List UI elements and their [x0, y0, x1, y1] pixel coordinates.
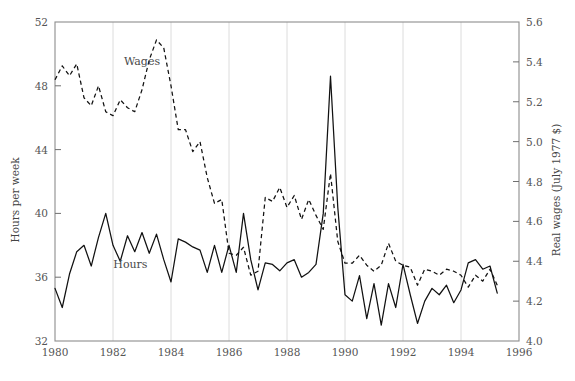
- x-tick-label: 1996: [506, 346, 533, 358]
- series-annotation-wages: Wages: [124, 55, 160, 68]
- y2-tick-label: 5.0: [526, 136, 543, 148]
- y2-tick-label: 5.2: [526, 96, 543, 108]
- x-tick-label: 1984: [158, 346, 185, 358]
- y2-tick-label: 4.2: [526, 295, 543, 307]
- gridlines: [113, 22, 461, 341]
- y-tick-label: 40: [35, 207, 48, 219]
- series-line-wages: [55, 40, 497, 287]
- x-tick-label: 1990: [332, 346, 359, 358]
- x-axis-ticks: 198019821984198619881990199219941996: [42, 346, 533, 358]
- chart-container: 198019821984198619881990199219941996 323…: [0, 0, 575, 381]
- data-series: [55, 40, 497, 325]
- x-tick-label: 1980: [42, 346, 69, 358]
- y2-tick-label: 4.6: [526, 215, 543, 227]
- x-tick-label: 1986: [216, 346, 243, 358]
- y2-tick-label: 5.6: [526, 16, 543, 28]
- y-axis-left-ticks: 323640444852: [35, 16, 61, 347]
- y-axis-right-title: Real wages (July 1977 $): [550, 124, 562, 257]
- hours-and-wages-line-chart: 198019821984198619881990199219941996 323…: [0, 0, 575, 381]
- series-line-hours: [55, 76, 497, 325]
- series-annotation-hours: Hours: [113, 258, 148, 271]
- axis-titles: Hours per week Real wages (July 1977 $): [9, 124, 562, 257]
- y2-tick-label: 4.4: [526, 255, 543, 267]
- y2-tick-label: 4.8: [526, 176, 543, 188]
- x-tick-label: 1994: [448, 346, 475, 358]
- x-tick-label: 1982: [100, 346, 127, 358]
- y2-tick-label: 4.0: [526, 335, 543, 347]
- y-tick-label: 32: [35, 335, 48, 347]
- y-tick-label: 44: [35, 144, 49, 156]
- x-tick-label: 1988: [274, 346, 301, 358]
- x-tick-label: 1992: [390, 346, 417, 358]
- y-tick-label: 36: [35, 271, 49, 283]
- y2-tick-label: 5.4: [526, 56, 543, 68]
- y-axis-left-title: Hours per week: [9, 157, 21, 243]
- y-axis-right-ticks: 4.04.24.44.64.85.05.25.45.6: [513, 16, 543, 347]
- series-annotations: WagesHours: [113, 55, 160, 271]
- y-tick-label: 48: [35, 80, 48, 92]
- y-tick-label: 52: [35, 16, 48, 28]
